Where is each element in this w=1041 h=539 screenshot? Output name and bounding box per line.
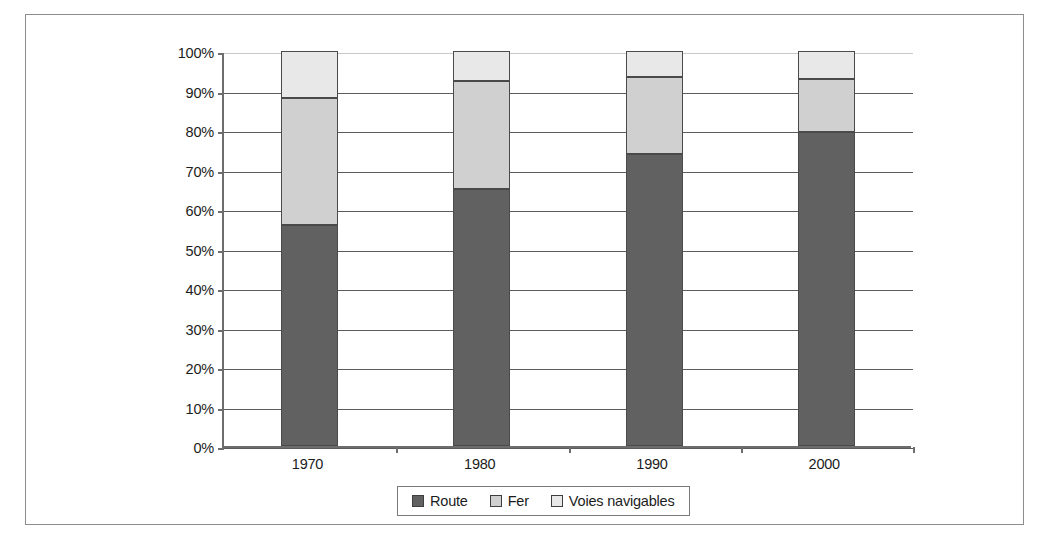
x-tick-mark xyxy=(913,447,915,453)
bar-segment-route-1970[interactable] xyxy=(281,225,338,446)
y-axis-label: 100% xyxy=(178,45,214,61)
legend-item-fer[interactable]: Fer xyxy=(490,493,529,509)
y-axis-label: 70% xyxy=(186,164,214,180)
plot-area xyxy=(222,53,911,448)
y-axis-label: 0% xyxy=(193,440,214,456)
bar-stack-2000[interactable] xyxy=(798,51,855,446)
bar-segment-voies-navigables-1980[interactable] xyxy=(453,51,510,81)
legend-label: Fer xyxy=(508,493,529,509)
y-tick-mark xyxy=(218,251,224,253)
bar-segment-fer-1990[interactable] xyxy=(626,77,683,154)
y-tick-mark xyxy=(218,369,224,371)
x-axis-label-1970: 1970 xyxy=(248,456,368,472)
bar-segment-route-1990[interactable] xyxy=(626,154,683,446)
y-axis-label: 90% xyxy=(186,85,214,101)
bar-segment-fer-2000[interactable] xyxy=(798,79,855,132)
chart-legend: RouteFerVoies navigables xyxy=(397,486,690,516)
legend-label: Voies navigables xyxy=(569,493,675,509)
bar-segment-route-1980[interactable] xyxy=(453,189,510,446)
bar-stack-1970[interactable] xyxy=(281,51,338,446)
legend-item-voies-navigables[interactable]: Voies navigables xyxy=(551,493,675,509)
y-axis-label: 30% xyxy=(186,322,214,338)
y-tick-mark xyxy=(218,409,224,411)
y-axis-label: 40% xyxy=(186,282,214,298)
legend-swatch-icon xyxy=(551,495,563,507)
y-tick-mark xyxy=(218,53,224,55)
y-axis-label-group: 0%10%20%30%40%50%60%70%80%90%100% xyxy=(146,53,214,448)
bar-segment-fer-1970[interactable] xyxy=(281,98,338,224)
legend-swatch-icon xyxy=(412,495,424,507)
bar-segment-fer-1980[interactable] xyxy=(453,81,510,190)
x-tick-mark xyxy=(569,447,571,453)
legend-label: Route xyxy=(430,493,468,509)
x-tick-mark xyxy=(741,447,743,453)
y-tick-mark xyxy=(218,290,224,292)
y-axis-label: 60% xyxy=(186,203,214,219)
y-axis-label: 50% xyxy=(186,243,214,259)
x-axis-label-1980: 1980 xyxy=(420,456,540,472)
bar-segment-voies-navigables-1970[interactable] xyxy=(281,51,338,98)
x-axis-label-group: 1970198019902000 xyxy=(222,456,911,480)
bar-stack-1990[interactable] xyxy=(626,51,683,446)
bar-segment-voies-navigables-1990[interactable] xyxy=(626,51,683,77)
y-axis-label: 10% xyxy=(186,401,214,417)
y-tick-mark xyxy=(218,93,224,95)
y-tick-mark xyxy=(218,172,224,174)
x-axis-label-1990: 1990 xyxy=(592,456,712,472)
bar-segment-route-2000[interactable] xyxy=(798,132,855,446)
chart-frame: 0%10%20%30%40%50%60%70%80%90%100% 197019… xyxy=(25,14,1024,525)
legend-item-route[interactable]: Route xyxy=(412,493,468,509)
legend-swatch-icon xyxy=(490,495,502,507)
y-axis-label: 20% xyxy=(186,361,214,377)
y-tick-mark xyxy=(218,330,224,332)
bar-segment-voies-navigables-2000[interactable] xyxy=(798,51,855,79)
bar-stack-1980[interactable] xyxy=(453,51,510,446)
y-tick-mark xyxy=(218,211,224,213)
y-axis-label: 80% xyxy=(186,124,214,140)
y-tick-mark xyxy=(218,448,224,450)
x-axis-label-2000: 2000 xyxy=(764,456,884,472)
y-tick-mark xyxy=(218,132,224,134)
x-tick-mark xyxy=(396,447,398,453)
